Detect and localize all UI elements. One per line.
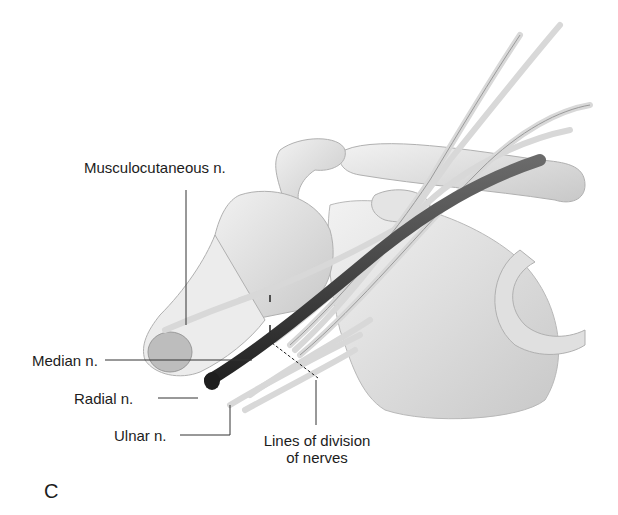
ulnar-nerve-label: Ulnar n.	[114, 427, 167, 444]
radial-nerve-label: Radial n.	[74, 390, 133, 407]
lines-of-division-label: Lines of division of nerves	[250, 432, 384, 466]
ulnar-leader	[180, 405, 230, 435]
scapula	[328, 201, 559, 419]
lines-of-division-line1: Lines of division	[250, 432, 384, 449]
lines-of-division-line2: of nerves	[250, 449, 384, 466]
median-nerve-label: Median n.	[32, 352, 98, 369]
panel-letter: C	[44, 480, 58, 503]
musculocutaneous-nerve-label: Musculocutaneous n.	[84, 159, 226, 176]
humerus-cut-surface	[148, 332, 192, 372]
